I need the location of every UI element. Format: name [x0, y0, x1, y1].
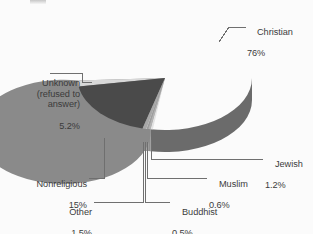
pie-label-jewish-name: Jewish — [275, 159, 303, 169]
pie-label-nonreligious-name: Nonreligious — [37, 179, 87, 189]
pie-label-unknown-name: Unknown (refused to answer) — [37, 78, 80, 110]
slice-side-christian — [151, 78, 253, 152]
pie-label-unknown: Unknown (refused to answer) 5.2% — [2, 67, 80, 153]
pie-label-nonreligious-value: 15% — [5, 200, 87, 211]
pie-label-muslim-name: Muslim — [219, 179, 248, 189]
leader-line-christian — [219, 27, 246, 42]
pie-label-jewish: Jewish 1.2% — [265, 148, 303, 213]
pie-label-christian-value: 76% — [247, 48, 293, 59]
pie-label-jewish-value: 1.2% — [265, 180, 303, 191]
pie-label-nonreligious: Nonreligious 15% — [5, 168, 87, 233]
pie-label-buddhist-name: Buddhist — [182, 207, 217, 217]
pie-label-unknown-value: 5.2% — [2, 121, 80, 132]
pie-label-christian: Christian 76% — [247, 16, 293, 81]
pie-label-buddhist: Buddhist 0.5% — [172, 196, 217, 234]
pie-chart-figure: Christian 76% Jewish 1.2% Muslim 0.6% Bu… — [0, 0, 313, 234]
pie-label-christian-name: Christian — [257, 27, 293, 37]
pie-label-buddhist-value: 0.5% — [172, 228, 217, 234]
